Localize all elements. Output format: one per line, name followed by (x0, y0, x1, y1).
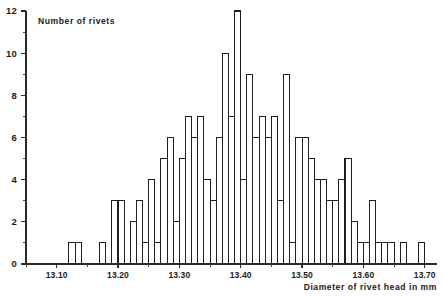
histogram-bar (155, 243, 161, 264)
histogram-bar (185, 116, 191, 264)
histogram-bar (100, 243, 106, 264)
histogram-bar (400, 243, 406, 264)
histogram-bar (198, 116, 204, 264)
histogram-bar (222, 53, 228, 264)
histogram-bar (241, 180, 247, 264)
histogram-bar (357, 243, 363, 264)
histogram-bar (271, 116, 277, 264)
histogram-bar (351, 222, 357, 264)
y-tick-label: 2 (12, 216, 17, 227)
histogram-bar (278, 201, 284, 264)
histogram-bar (320, 180, 326, 264)
bars-group (69, 11, 425, 264)
histogram-bar (259, 116, 265, 264)
x-tick-label: 13.20 (107, 270, 129, 280)
histogram-bar (75, 243, 81, 264)
histogram-bar (419, 243, 425, 264)
histogram-bar (235, 11, 241, 264)
histogram-bar (345, 159, 351, 264)
histogram-bar (204, 180, 210, 264)
x-tick-label: 13.10 (46, 270, 68, 280)
y-tick-label: 8 (12, 90, 17, 101)
histogram-bar (296, 138, 302, 265)
histogram-bar (388, 243, 394, 264)
histogram-bar (173, 222, 179, 264)
y-tick-label: 4 (12, 174, 18, 185)
histogram-bar (370, 201, 376, 264)
x-tick-label: 13.50 (291, 270, 313, 280)
histogram-bar (382, 243, 388, 264)
histogram-bar (284, 74, 290, 264)
histogram-bar (112, 201, 118, 264)
y-tick-label: 12 (6, 5, 17, 16)
histogram-bar (333, 201, 339, 264)
histogram-bar (247, 74, 253, 264)
histogram-bar (265, 138, 271, 265)
histogram-bar (149, 180, 155, 264)
histogram-bar (363, 243, 369, 264)
x-tick-label: 13.30 (168, 270, 190, 280)
histogram-bar (327, 201, 333, 264)
histogram-bar (210, 201, 216, 264)
histogram-svg: 024681012 13.1013.2013.3013.4013.5013.60… (0, 0, 445, 296)
y-tick-label: 0 (12, 258, 17, 269)
histogram-bar (376, 243, 382, 264)
y-tick-label: 10 (6, 48, 17, 59)
histogram-bar (167, 138, 173, 265)
x-axis-title: Diameter of rivet head in mm (304, 282, 437, 292)
histogram-bar (179, 159, 185, 264)
histogram-bar (308, 159, 314, 264)
y-tick-label: 6 (12, 132, 17, 143)
histogram-bar (161, 159, 167, 264)
histogram-bar (192, 138, 198, 265)
histogram-bar (136, 201, 142, 264)
histogram-bar (69, 243, 75, 264)
histogram-bar (314, 180, 320, 264)
y-axis-title: Number of rivets (38, 16, 115, 26)
histogram-bar (130, 222, 136, 264)
histogram-bar (216, 138, 222, 265)
histogram-bar (290, 243, 296, 264)
histogram-bar (253, 138, 259, 265)
histogram-bar (302, 138, 308, 265)
histogram-chart: 024681012 13.1013.2013.3013.4013.5013.60… (0, 0, 445, 296)
histogram-bar (143, 243, 149, 264)
x-tick-group: 13.1013.2013.3013.4013.5013.6013.70 (26, 264, 436, 280)
histogram-bar (339, 180, 345, 264)
x-tick-label: 13.70 (414, 270, 436, 280)
x-tick-label: 13.40 (230, 270, 252, 280)
y-tick-group: 024681012 (6, 5, 26, 269)
x-tick-label: 13.60 (352, 270, 374, 280)
histogram-bar (228, 116, 234, 264)
histogram-bar (118, 201, 124, 264)
